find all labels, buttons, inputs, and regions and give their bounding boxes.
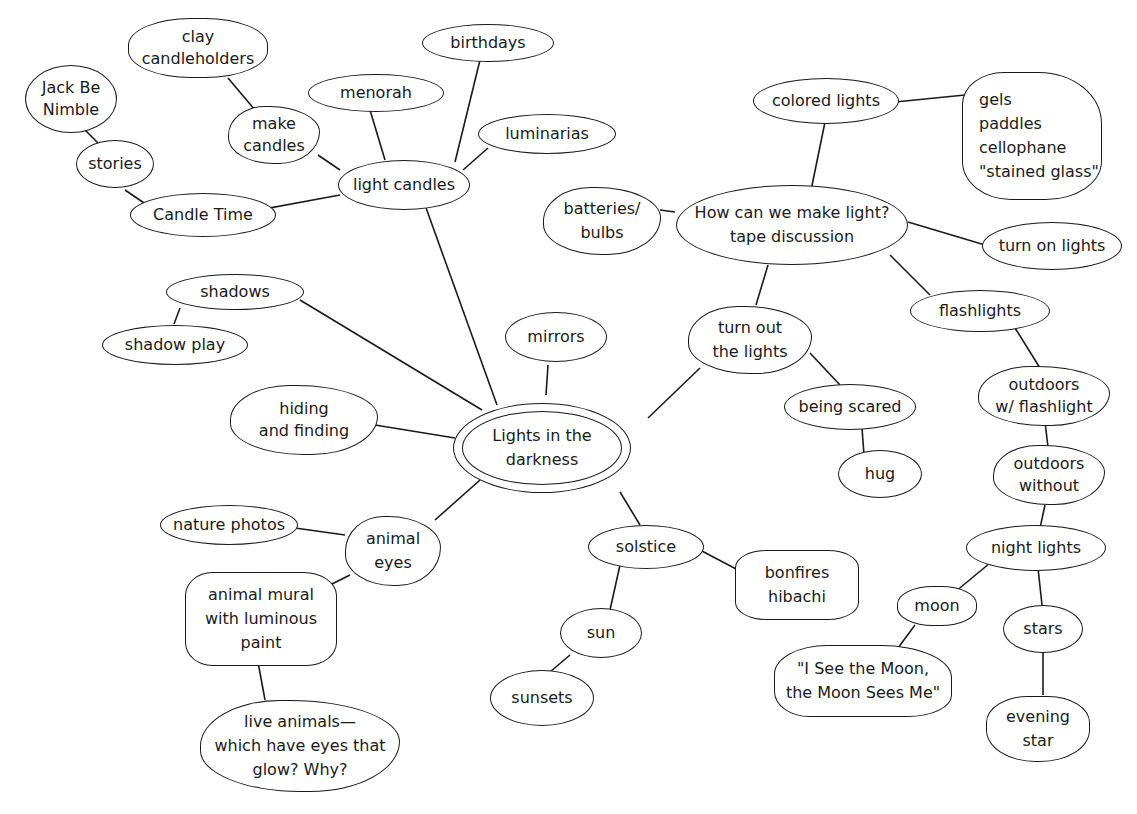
- node-stars[interactable]: stars: [1003, 605, 1083, 653]
- node-sunsets[interactable]: sunsets: [490, 670, 594, 726]
- node-hiding-and-finding[interactable]: hiding and finding: [230, 385, 378, 455]
- node-light-candles[interactable]: light candles: [338, 160, 470, 210]
- node-i-see-the-moon[interactable]: "I See the Moon, the Moon Sees Me": [774, 645, 952, 717]
- node-outdoors-with-flashlight[interactable]: outdoors w/ flashlight: [978, 366, 1110, 426]
- node-shadows[interactable]: shadows: [166, 274, 304, 310]
- node-nature-photos[interactable]: nature photos: [160, 505, 298, 545]
- central-topic-label: Lights in the darkness: [462, 411, 622, 485]
- node-flashlights[interactable]: flashlights: [910, 290, 1050, 332]
- node-how-can-we-make-light[interactable]: How can we make light? tape discussion: [676, 185, 908, 265]
- node-jack-be-nimble[interactable]: Jack Be Nimble: [25, 65, 117, 133]
- node-stories[interactable]: stories: [76, 140, 154, 188]
- node-animal-eyes[interactable]: animal eyes: [345, 516, 441, 586]
- node-hug[interactable]: hug: [838, 450, 922, 498]
- node-evening-star[interactable]: evening star: [986, 696, 1090, 762]
- node-colored-lights[interactable]: colored lights: [753, 78, 899, 124]
- node-batteries-bulbs[interactable]: batteries/ bulbs: [543, 187, 661, 255]
- node-live-animals[interactable]: live animals— which have eyes that glow?…: [200, 700, 400, 792]
- node-birthdays[interactable]: birthdays: [422, 24, 554, 62]
- node-bonfires-hibachi[interactable]: bonfires hibachi: [735, 550, 859, 620]
- node-sun[interactable]: sun: [560, 608, 642, 658]
- node-shadow-play[interactable]: shadow play: [102, 325, 248, 365]
- node-turn-out-the-lights[interactable]: turn out the lights: [688, 306, 812, 374]
- node-turn-on-lights[interactable]: turn on lights: [982, 222, 1122, 270]
- node-being-scared[interactable]: being scared: [784, 384, 916, 430]
- node-solstice[interactable]: solstice: [588, 525, 704, 569]
- node-gels-list[interactable]: gels paddles cellophane "stained glass": [962, 72, 1102, 200]
- central-topic[interactable]: Lights in the darkness: [453, 403, 631, 493]
- node-menorah[interactable]: menorah: [308, 74, 444, 112]
- node-mirrors[interactable]: mirrors: [505, 312, 607, 362]
- node-night-lights[interactable]: night lights: [966, 525, 1106, 571]
- node-outdoors-without[interactable]: outdoors without: [993, 445, 1105, 505]
- node-luminarias[interactable]: luminarias: [478, 114, 616, 154]
- node-candle-time[interactable]: Candle Time: [130, 193, 276, 237]
- node-clay-candleholders[interactable]: clay candleholders: [128, 18, 268, 78]
- node-animal-mural[interactable]: animal mural with luminous paint: [185, 572, 337, 666]
- node-moon[interactable]: moon: [897, 586, 977, 626]
- node-make-candles[interactable]: make candles: [228, 106, 320, 164]
